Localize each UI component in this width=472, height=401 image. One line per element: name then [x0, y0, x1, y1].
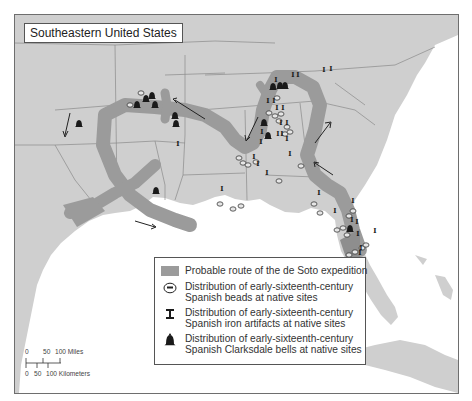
svg-text:I: I: [329, 64, 332, 73]
map-legend: Probable route of the de Soto expedition…: [154, 257, 366, 365]
svg-text:I: I: [252, 152, 255, 161]
scale-km-0: 0: [25, 370, 29, 377]
svg-text:I: I: [285, 134, 288, 143]
svg-text:I: I: [260, 127, 263, 136]
legend-label: Distribution of early-sixteenth-century …: [185, 281, 353, 303]
route-swatch-icon: [161, 264, 179, 278]
svg-text:I: I: [281, 103, 284, 112]
svg-text:I: I: [274, 75, 277, 84]
cuba-island: [353, 340, 458, 393]
svg-text:I: I: [288, 149, 291, 158]
scale-km-100: 100 Kilometers: [46, 370, 90, 377]
scale-km-50: 50: [34, 370, 41, 377]
map-frame: II III II II II II III II II II II II II…: [14, 14, 459, 394]
scale-bar: 0 50 100 Miles 0 50 100 Kilometers: [25, 348, 115, 388]
svg-text:I: I: [280, 129, 283, 138]
lake-okeechobee: [384, 275, 396, 285]
bahamas-island: [415, 255, 427, 265]
svg-text:I: I: [265, 168, 268, 177]
scale-miles-100: 100 Miles: [55, 348, 83, 355]
bahamas-island: [435, 275, 453, 300]
svg-text:I: I: [355, 217, 358, 226]
scale-ruler: [25, 357, 85, 371]
legend-item-route: Probable route of the de Soto expedition: [161, 264, 367, 278]
svg-text:I: I: [276, 129, 279, 138]
svg-text:I: I: [279, 118, 282, 127]
legend-label: Distribution of early-sixteenth-century …: [185, 333, 362, 355]
scale-miles-50: 50: [43, 348, 50, 355]
bell-icon: [161, 333, 179, 347]
svg-text:I: I: [350, 215, 353, 224]
svg-text:I: I: [266, 96, 269, 105]
svg-text:I: I: [351, 196, 354, 205]
scale-miles-0: 0: [25, 348, 29, 355]
map-title: Southeastern United States: [24, 23, 183, 43]
svg-text:I: I: [296, 70, 299, 79]
svg-text:I: I: [285, 118, 288, 127]
svg-text:I: I: [259, 137, 262, 146]
svg-text:I: I: [317, 188, 320, 197]
svg-text:I: I: [333, 206, 336, 215]
svg-text:I: I: [176, 139, 179, 148]
iron-artifact-icon: [161, 307, 179, 321]
bead-icon: [161, 281, 179, 295]
svg-text:I: I: [256, 159, 259, 168]
svg-text:I: I: [275, 103, 278, 112]
legend-item-bells: Distribution of early-sixteenth-century …: [161, 333, 362, 355]
svg-text:I: I: [220, 184, 223, 193]
svg-text:I: I: [291, 70, 294, 79]
svg-text:I: I: [356, 229, 359, 238]
svg-text:I: I: [322, 65, 325, 74]
legend-label: Probable route of the de Soto expedition: [185, 264, 367, 276]
svg-text:I: I: [358, 248, 361, 257]
legend-item-beads: Distribution of early-sixteenth-century …: [161, 281, 353, 303]
legend-label: Distribution of early-sixteenth-century …: [185, 307, 353, 329]
svg-text:I: I: [373, 226, 376, 235]
legend-item-iron: Distribution of early-sixteenth-century …: [161, 307, 353, 329]
